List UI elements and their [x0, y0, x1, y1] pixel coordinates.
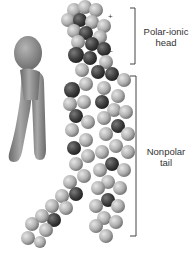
head-label: Polar-ionic head	[138, 26, 194, 48]
positive-charge-label: +	[108, 12, 113, 21]
head-label-line1: Polar-ionic	[138, 26, 194, 37]
tail-chain-right	[89, 81, 135, 243]
tail-chain-left	[21, 77, 95, 248]
polar-head-atoms	[61, 0, 131, 87]
tail-label: Nonpolar tail	[138, 146, 194, 168]
tail-label-line2: tail	[138, 157, 194, 168]
head-bracket	[130, 8, 135, 64]
head-label-line2: head	[138, 37, 194, 48]
tail-label-line1: Nonpolar	[138, 146, 194, 157]
negative-charge-label: –	[108, 46, 112, 55]
phospholipid-icon	[9, 36, 46, 162]
